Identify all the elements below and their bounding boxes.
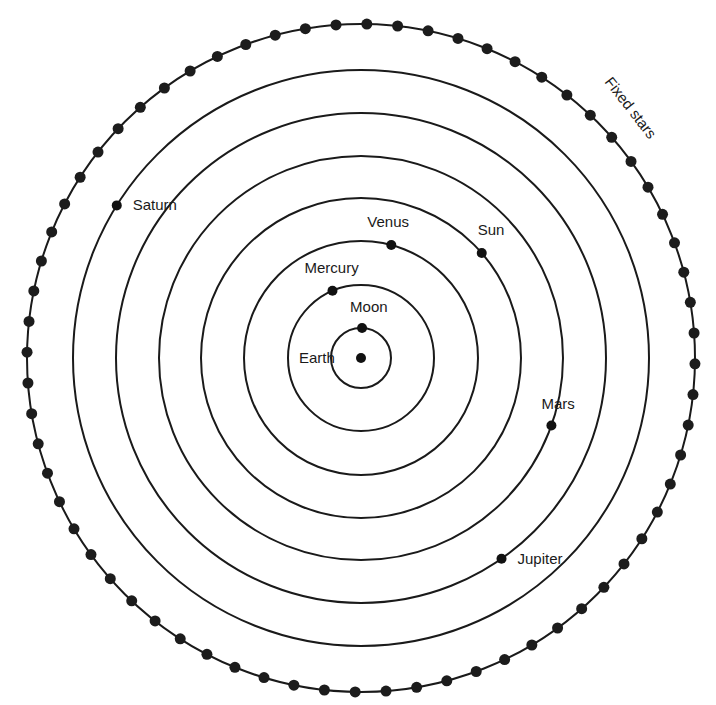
star-dot (22, 378, 33, 389)
earth-dot (356, 353, 366, 363)
star-dot (585, 110, 596, 121)
star-dot (75, 172, 86, 183)
star-dot (113, 123, 124, 134)
star-dot (606, 132, 617, 143)
star-dot (423, 25, 434, 36)
geocentric-diagram: EarthMoonMercuryVenusSunMarsJupiterSatur… (0, 0, 716, 705)
star-dot (33, 438, 44, 449)
star-dot (59, 198, 70, 209)
sun-dot (477, 248, 487, 258)
star-dot (665, 479, 676, 490)
star-dot (330, 19, 341, 30)
star-dot (381, 686, 392, 697)
star-dot (536, 72, 547, 83)
earth-label: Earth (299, 349, 335, 366)
star-dot (150, 615, 161, 626)
star-dot (685, 297, 696, 308)
star-dot (212, 51, 223, 62)
star-dot (683, 420, 694, 431)
star-dot (526, 639, 537, 650)
star-dot (689, 358, 700, 369)
star-dot (22, 347, 33, 358)
star-dot (687, 389, 698, 400)
star-dot (482, 43, 493, 54)
star-dot (229, 662, 240, 673)
fixed-stars-label: Fixed stars (602, 73, 661, 141)
star-dot (411, 682, 422, 693)
star-dot (657, 209, 668, 220)
star-dot (259, 672, 270, 683)
star-dot (46, 226, 57, 237)
jupiter-label: Jupiter (518, 550, 563, 567)
star-dot (499, 654, 510, 665)
star-dot (319, 684, 330, 695)
star-dot (26, 408, 37, 419)
mars-dot (546, 420, 556, 430)
star-dot (669, 237, 680, 248)
saturn-label: Saturn (133, 196, 177, 213)
star-dot (350, 686, 361, 697)
star-dot (126, 595, 137, 606)
star-dot (626, 156, 637, 167)
star-dot (689, 327, 700, 338)
star-dot (54, 496, 65, 507)
star-dot (288, 680, 299, 691)
star-dot (552, 623, 563, 634)
star-dot (159, 82, 170, 93)
star-dot (675, 449, 686, 460)
star-dot (636, 533, 647, 544)
star-dot (24, 316, 35, 327)
star-dot (361, 19, 372, 30)
star-dot (28, 285, 39, 296)
star-dot (185, 66, 196, 77)
star-dot (452, 33, 463, 44)
venus-label: Venus (367, 213, 409, 230)
star-dot (441, 675, 452, 686)
star-dot (510, 56, 521, 67)
star-dot (576, 603, 587, 614)
star-dot (618, 558, 629, 569)
star-dot (642, 182, 653, 193)
star-dot (598, 582, 609, 593)
star-dot (300, 23, 311, 34)
star-dot (93, 147, 104, 158)
star-dot (392, 21, 403, 32)
star-dot (270, 30, 281, 41)
mars-label: Mars (541, 395, 574, 412)
star-dot (42, 468, 53, 479)
saturn-dot (112, 200, 122, 210)
star-dot (678, 267, 689, 278)
mercury-label: Mercury (304, 259, 359, 276)
jupiter-dot (497, 554, 507, 564)
star-dot (175, 633, 186, 644)
star-dot (652, 507, 663, 518)
moon-dot (357, 323, 367, 333)
star-dot (471, 666, 482, 677)
mercury-dot (327, 286, 337, 296)
star-dot (85, 549, 96, 560)
star-dot (201, 649, 212, 660)
star-dot (105, 573, 116, 584)
venus-dot (386, 240, 396, 250)
star-dot (135, 102, 146, 113)
sun-label: Sun (478, 221, 505, 238)
star-dot (561, 90, 572, 101)
star-dot (69, 523, 80, 534)
moon-label: Moon (350, 298, 388, 315)
star-dot (240, 39, 251, 50)
star-dot (36, 256, 47, 267)
